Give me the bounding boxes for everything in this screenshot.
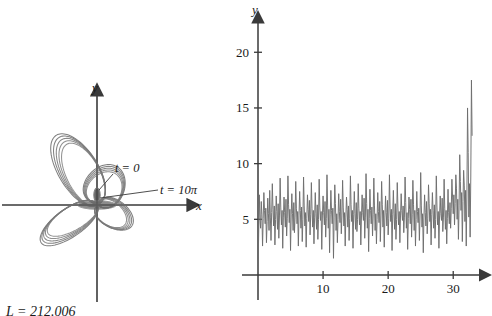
chart-y-tick-label: 15 [236, 100, 249, 115]
figure-caption: L = 212.006 [6, 304, 75, 316]
chart-y-tick-label: 10 [236, 156, 249, 171]
chart-x-tick-label: 10 [317, 281, 330, 296]
annotation-t-start: t = 0 [115, 161, 140, 175]
chart-data-line [258, 80, 472, 273]
butterfly-curve-svg: x y t = 0 t = 10π [0, 0, 230, 316]
t-start-leader [99, 174, 113, 190]
origin-hub [78, 201, 116, 209]
butterfly-curve-path [40, 134, 133, 246]
left-x-axis-label: x [195, 198, 202, 213]
butterfly-curve-figure: x y t = 0 t = 10π L = 212.006 [0, 0, 230, 316]
chart-y-tick-label: 20 [236, 45, 249, 60]
chart-tick-label-group: 1020305101520 [236, 45, 460, 296]
speed-line-chart-figure: y 1020305101520 [228, 0, 492, 316]
chart-x-tick-label: 30 [447, 281, 460, 296]
chart-y-tick-label: 5 [243, 212, 250, 227]
chart-x-tick-label: 20 [382, 281, 395, 296]
t-end-leader [100, 190, 158, 198]
annotation-t-end: t = 10π [160, 183, 198, 197]
speed-line-chart-svg: y 1020305101520 [228, 0, 492, 316]
chart-y-axis-label: y [250, 2, 258, 17]
left-y-axis-label: y [90, 80, 98, 95]
